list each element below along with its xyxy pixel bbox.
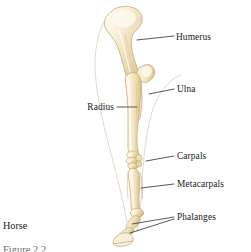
label-ulna: Ulna (177, 85, 196, 94)
carpals-bones (126, 151, 142, 169)
caption-species-horse: Horse (3, 220, 27, 231)
radius-bone (125, 73, 141, 155)
label-phalanges: Phalanges (177, 213, 216, 222)
label-humerus: Humerus (176, 33, 211, 42)
caption-figure-number-clipped: Figure 2.2 (3, 246, 123, 252)
leader-line-humerus (137, 36, 174, 40)
label-radius: Radius (56, 103, 114, 112)
leader-line-ulna (149, 89, 174, 94)
leader-line-carpals (146, 156, 174, 161)
phalanges-bones (113, 208, 144, 246)
horse-forelimb-figure: Humerus Ulna Radius Carpals Metacarpals … (0, 0, 251, 252)
leader-line-metacarpals (141, 184, 174, 188)
label-carpals: Carpals (177, 152, 206, 161)
label-metacarpals: Metacarpals (177, 180, 224, 189)
